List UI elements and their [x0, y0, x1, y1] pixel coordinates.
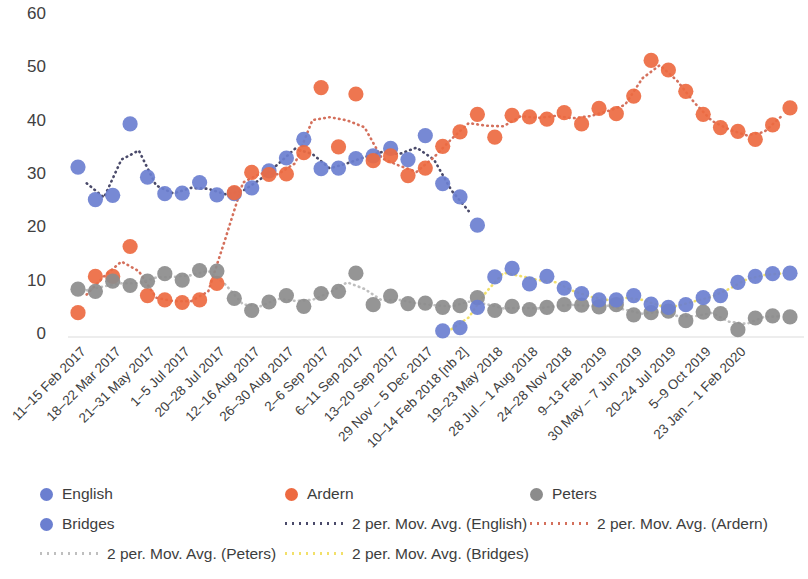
- data-point: [244, 180, 259, 195]
- data-point: [331, 161, 346, 176]
- data-point: [123, 239, 138, 254]
- trendline-peters: [87, 271, 782, 324]
- data-point: [157, 186, 172, 201]
- data-point: [348, 151, 363, 166]
- data-point: [730, 275, 745, 290]
- data-point: [244, 165, 259, 180]
- data-point: [175, 273, 190, 288]
- data-point: [470, 107, 485, 122]
- data-point: [730, 322, 745, 337]
- data-point: [261, 294, 276, 309]
- data-point: [504, 261, 519, 276]
- data-point: [418, 128, 433, 143]
- data-point: [70, 282, 85, 297]
- data-point: [678, 297, 693, 312]
- data-point: [192, 292, 207, 307]
- data-point: [209, 187, 224, 202]
- legend-item-english[interactable]: English: [40, 486, 113, 502]
- trendline-ardern: [87, 65, 782, 301]
- data-point: [400, 152, 415, 167]
- data-point: [105, 188, 120, 203]
- legend-dot-bridges-icon: [40, 518, 53, 531]
- data-point: [713, 288, 728, 303]
- data-point: [748, 132, 763, 147]
- data-point: [765, 308, 780, 323]
- data-point: [279, 150, 294, 165]
- data-point: [678, 313, 693, 328]
- data-point: [539, 300, 554, 315]
- data-point: [314, 161, 329, 176]
- data-point: [487, 130, 502, 145]
- data-point: [470, 300, 485, 315]
- legend-label: English: [62, 486, 113, 502]
- data-point: [713, 120, 728, 135]
- data-point: [157, 292, 172, 307]
- data-point: [504, 299, 519, 314]
- data-point: [557, 297, 572, 312]
- data-point: [696, 305, 711, 320]
- data-point: [279, 166, 294, 181]
- legend-item-ardern[interactable]: Ardern: [285, 486, 354, 502]
- data-point: [296, 299, 311, 314]
- data-point: [88, 192, 103, 207]
- data-point: [696, 290, 711, 305]
- legend-item-bridges[interactable]: Bridges: [40, 516, 115, 532]
- data-point: [140, 288, 155, 303]
- data-point: [400, 296, 415, 311]
- data-point: [348, 86, 363, 101]
- chart-legend: EnglishArdernPetersBridges2 per. Mov. Av…: [0, 474, 808, 579]
- legend-item-avg-ardern[interactable]: 2 per. Mov. Avg. (Ardern): [530, 516, 768, 532]
- data-point: [366, 153, 381, 168]
- data-point: [644, 297, 659, 312]
- data-point: [539, 269, 554, 284]
- data-point: [88, 284, 103, 299]
- data-point: [487, 303, 502, 318]
- data-point: [192, 175, 207, 190]
- legend-item-avg-english[interactable]: 2 per. Mov. Avg. (English): [285, 516, 527, 532]
- data-point: [782, 309, 797, 324]
- legend-dotted-line-avg-english-icon: [285, 522, 343, 526]
- data-point: [782, 100, 797, 115]
- data-point: [227, 291, 242, 306]
- data-point: [452, 320, 467, 335]
- legend-label: 2 per. Mov. Avg. (English): [352, 516, 527, 532]
- data-point: [296, 145, 311, 160]
- data-point: [626, 307, 641, 322]
- data-point: [88, 269, 103, 284]
- data-point: [626, 89, 641, 104]
- data-point: [157, 266, 172, 281]
- data-point: [557, 281, 572, 296]
- data-point: [105, 274, 120, 289]
- data-point: [765, 266, 780, 281]
- data-point: [296, 132, 311, 147]
- data-point: [609, 106, 624, 121]
- data-point: [418, 296, 433, 311]
- legend-item-avg-peters[interactable]: 2 per. Mov. Avg. (Peters): [40, 546, 276, 562]
- data-point: [626, 288, 641, 303]
- data-point: [730, 124, 745, 139]
- data-point: [400, 168, 415, 183]
- data-point: [435, 176, 450, 191]
- data-point: [591, 101, 606, 116]
- data-point: [644, 53, 659, 68]
- data-point: [591, 292, 606, 307]
- data-point: [175, 295, 190, 310]
- data-point: [661, 62, 676, 77]
- data-point: [435, 139, 450, 154]
- data-point: [70, 305, 85, 320]
- data-point: [140, 170, 155, 185]
- legend-item-peters[interactable]: Peters: [530, 486, 597, 502]
- legend-dot-peters-icon: [530, 488, 543, 501]
- data-point: [348, 266, 363, 281]
- data-point: [435, 300, 450, 315]
- legend-item-avg-bridges[interactable]: 2 per. Mov. Avg. (Bridges): [285, 546, 529, 562]
- data-point: [696, 107, 711, 122]
- legend-label: 2 per. Mov. Avg. (Bridges): [352, 546, 529, 562]
- data-point: [227, 185, 242, 200]
- data-point: [383, 148, 398, 163]
- data-point: [314, 286, 329, 301]
- legend-dotted-line-avg-peters-icon: [40, 552, 98, 556]
- data-point: [452, 124, 467, 139]
- data-point: [70, 160, 85, 175]
- legend-label: 2 per. Mov. Avg. (Peters): [107, 546, 276, 562]
